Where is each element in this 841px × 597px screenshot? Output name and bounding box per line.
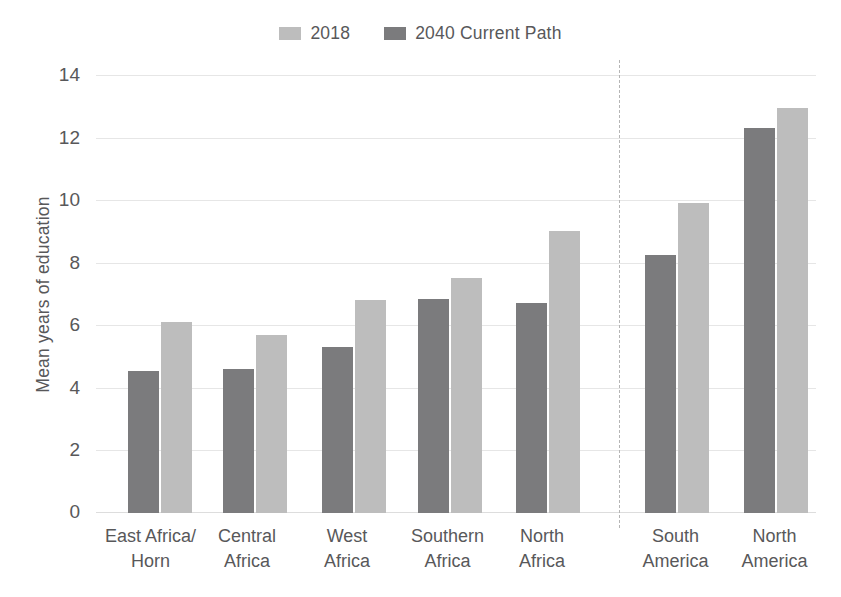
y-tick-0: 0	[69, 501, 80, 523]
chart-page: 2018 2040 Current Path Mean years of edu…	[0, 0, 841, 597]
y-tick-4: 4	[69, 377, 80, 399]
bar-2018-west-africa[interactable]	[355, 300, 386, 513]
bar-2018-north-africa[interactable]	[549, 231, 580, 513]
legend-swatch-2040	[384, 27, 406, 40]
x-label-north-america: North America	[712, 524, 837, 574]
y-axis-title-text: Mean years of education	[33, 196, 54, 392]
y-tick-6: 6	[69, 314, 80, 336]
bar-2040-southern-africa[interactable]	[418, 299, 449, 513]
legend-item-2018[interactable]: 2018	[279, 23, 350, 44]
legend-label-2018: 2018	[310, 23, 350, 44]
bar-2040-west-africa[interactable]	[322, 347, 353, 513]
bar-group-southern-africa	[418, 75, 482, 513]
bar-2040-north-america[interactable]	[744, 128, 775, 513]
legend-label-2040-current-path: 2040 Current Path	[415, 23, 561, 44]
bar-group-central-africa	[223, 75, 287, 513]
bar-group-south-america	[645, 75, 709, 513]
x-label-central-africa: Central Africa	[192, 524, 302, 574]
bar-2040-east-africa-horn[interactable]	[128, 371, 159, 513]
bar-group-north-america	[744, 75, 808, 513]
bar-2018-southern-africa[interactable]	[451, 278, 482, 513]
bar-2040-central-africa[interactable]	[223, 369, 254, 513]
x-label-north-africa: North Africa	[487, 524, 597, 574]
bar-group-north-africa	[516, 75, 580, 513]
bar-2040-south-america[interactable]	[645, 255, 676, 513]
y-tick-12: 12	[59, 127, 80, 149]
bar-2018-central-africa[interactable]	[256, 335, 287, 513]
y-tick-2: 2	[69, 439, 80, 461]
legend-item-2040-current-path[interactable]: 2040 Current Path	[384, 23, 561, 44]
bar-2018-south-america[interactable]	[678, 203, 709, 513]
bar-group-east-africa-horn	[128, 75, 192, 513]
bar-2040-north-africa[interactable]	[516, 303, 547, 513]
y-tick-14: 14	[59, 64, 80, 86]
plot-area: 0 2 4 6 8 10 12 14	[96, 75, 816, 513]
y-tick-8: 8	[69, 252, 80, 274]
bar-2018-north-america[interactable]	[777, 108, 808, 513]
bar-2018-east-africa-horn[interactable]	[161, 322, 192, 513]
y-tick-10: 10	[59, 189, 80, 211]
chart-legend: 2018 2040 Current Path	[0, 18, 841, 48]
region-divider	[619, 60, 620, 528]
bar-group-west-africa	[322, 75, 386, 513]
y-axis-title: Mean years of education	[30, 75, 56, 513]
legend-swatch-2018	[279, 27, 301, 40]
